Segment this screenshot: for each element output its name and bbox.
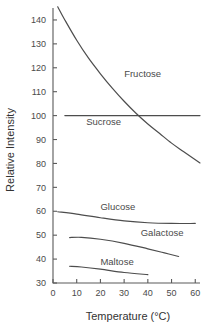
series-inline-labels: FructoseSucroseGlucoseGalactoseMaltose bbox=[86, 68, 183, 267]
x-tick-label: 40 bbox=[143, 288, 153, 298]
axes-group bbox=[53, 8, 200, 283]
y-tick-label: 50 bbox=[36, 230, 46, 240]
y-tick-label: 120 bbox=[31, 63, 46, 73]
y-tick-label: 100 bbox=[31, 111, 46, 121]
x-tick-label: 50 bbox=[167, 288, 177, 298]
y-tick-label: 90 bbox=[36, 135, 46, 145]
x-tick-label: 0 bbox=[50, 288, 55, 298]
series-label-galactose: Galactose bbox=[141, 227, 184, 238]
x-tick-label: 30 bbox=[119, 288, 129, 298]
x-tick-label: 10 bbox=[72, 288, 82, 298]
x-tick-label: 60 bbox=[190, 288, 200, 298]
relative-intensity-line-chart: 30405060708090100110120130140 0102030405… bbox=[0, 0, 218, 332]
x-axis-title: Temperature (°C) bbox=[86, 310, 170, 322]
x-tick-label: 20 bbox=[95, 288, 105, 298]
curve-galactose bbox=[70, 237, 179, 256]
y-tick-label: 130 bbox=[31, 39, 46, 49]
x-axis-tick-labels: 0102030405060 bbox=[50, 288, 200, 298]
y-tick-label: 70 bbox=[36, 183, 46, 193]
y-tick-label: 140 bbox=[31, 15, 46, 25]
series-label-maltose: Maltose bbox=[100, 256, 133, 267]
x-axis-ticks bbox=[53, 279, 195, 283]
series-label-glucose: Glucose bbox=[100, 201, 135, 212]
series-label-fructose: Fructose bbox=[124, 68, 161, 79]
curve-glucose bbox=[58, 212, 196, 224]
series-label-sucrose: Sucrose bbox=[86, 116, 121, 127]
y-tick-label: 40 bbox=[36, 254, 46, 264]
y-tick-label: 60 bbox=[36, 206, 46, 216]
y-axis-title: Relative Intensity bbox=[4, 108, 16, 192]
curve-fructose bbox=[58, 7, 200, 163]
axis-lines bbox=[53, 8, 200, 283]
y-tick-label: 110 bbox=[32, 87, 46, 97]
chart-figure: 30405060708090100110120130140 0102030405… bbox=[0, 0, 218, 332]
curve-maltose bbox=[70, 266, 148, 274]
y-tick-label: 30 bbox=[36, 278, 46, 288]
y-axis-tick-labels: 30405060708090100110120130140 bbox=[31, 15, 46, 288]
y-tick-label: 80 bbox=[36, 159, 46, 169]
y-axis-ticks bbox=[53, 20, 57, 283]
